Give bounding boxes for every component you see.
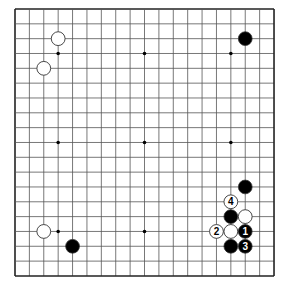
star-point: [56, 141, 60, 145]
stone-disc: [37, 61, 51, 75]
move-number-label: 3: [242, 241, 248, 252]
white-stone: [37, 225, 51, 239]
move-number-label: 4: [228, 196, 234, 207]
black-stone: [224, 239, 238, 253]
stone-disc: [51, 32, 65, 46]
star-point: [229, 52, 233, 56]
black-stone: [238, 180, 252, 194]
white-stone: [37, 61, 51, 75]
stone-disc: [238, 210, 252, 224]
stone-disc: [238, 32, 252, 46]
stone-disc: [66, 239, 80, 253]
star-point: [229, 141, 233, 145]
move-number-label: 2: [214, 226, 220, 237]
black-stone: 1: [238, 225, 252, 239]
white-stone: 2: [210, 225, 224, 239]
black-stone: 3: [238, 239, 252, 253]
white-stone: 4: [224, 195, 238, 209]
move-number-label: 1: [242, 226, 248, 237]
stone-disc: [37, 225, 51, 239]
star-point: [56, 230, 60, 234]
white-stone: [238, 210, 252, 224]
black-stone: [66, 239, 80, 253]
stone-disc: [224, 239, 238, 253]
stone-disc: [238, 180, 252, 194]
black-stone: [224, 210, 238, 224]
star-point: [143, 52, 147, 56]
white-stone: [51, 32, 65, 46]
black-stone: [238, 32, 252, 46]
stone-disc: [224, 210, 238, 224]
stone-disc: [224, 225, 238, 239]
star-point: [143, 141, 147, 145]
star-point: [143, 230, 147, 234]
star-point: [56, 52, 60, 56]
white-stone: [224, 225, 238, 239]
go-board: 4213: [0, 0, 285, 288]
